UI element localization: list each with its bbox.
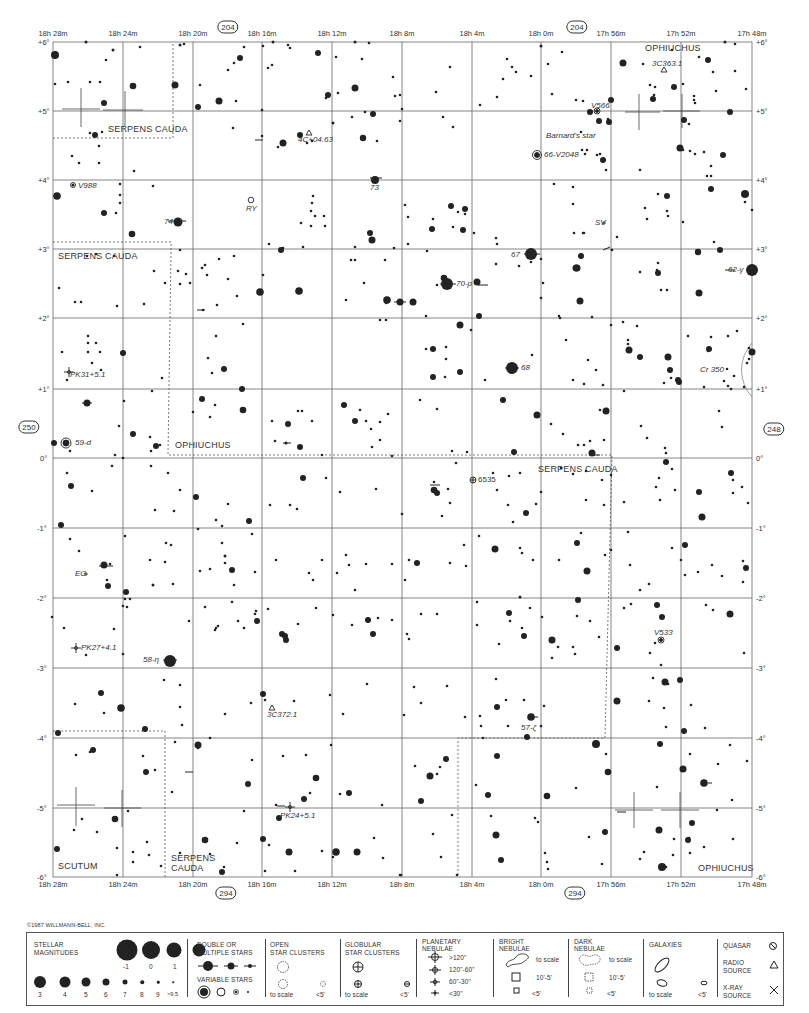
object-label: Barnard's star [546, 132, 596, 140]
magnitude-dot [157, 981, 160, 984]
object-label: V988 [78, 182, 97, 190]
constellation-label-scutum: SCUTUM [58, 862, 98, 871]
object-label: PK31+5.1 [70, 371, 105, 379]
constellation-label-ophiuchus: OPHIUCHUS [698, 864, 754, 873]
adjacent-chart-link-top[interactable]: 204 [217, 21, 238, 34]
adjacent-chart-link-top[interactable]: 204 [566, 21, 587, 34]
legend-label: <5' [607, 990, 616, 997]
dec-label-left: -3° [37, 664, 47, 673]
legend-label: 10'-5' [609, 974, 625, 981]
legend-divider [717, 939, 718, 997]
dark-nebula-icons [577, 951, 607, 1003]
ra-label-bottom: 18h 12m [317, 880, 346, 889]
dec-label-left: -2° [37, 594, 47, 603]
legend-title: QUASAR [723, 942, 751, 949]
object-label: 3C363.1 [652, 60, 682, 68]
dec-label-left: -4° [37, 734, 47, 743]
legend-open-clusters: OPEN STAR CLUSTERS to scale <5' [267, 933, 342, 1005]
magnitude-dot [82, 978, 91, 987]
legend-label: <5' [316, 991, 325, 998]
object-label: 59-d [75, 439, 91, 447]
dec-label-right: +6° [756, 38, 768, 47]
ra-label-top: 17h 48m [737, 29, 766, 38]
legend-divider [187, 939, 188, 997]
legend-divider [493, 939, 494, 997]
dec-label-right: -1° [756, 524, 766, 533]
adjacent-chart-link-left[interactable]: 250 [18, 421, 39, 434]
legend-title: RADIO [723, 959, 744, 966]
legend-label: 10'-5' [536, 974, 552, 981]
double-star-icons [196, 960, 276, 972]
legend-label: to scale [649, 991, 672, 998]
object-label: 73 [370, 184, 379, 192]
x-ray-source-icon [769, 985, 779, 995]
legend-globular-clusters: GLOBULAR STAR CLUSTERS to scale <5' [342, 933, 417, 1005]
object-label: 58-η [143, 656, 159, 664]
constellation-label-serpens-cauda: CAUDA [171, 864, 204, 873]
magnitude-dot [123, 980, 128, 985]
object-label: 74 [164, 218, 173, 226]
legend-title: STAR CLUSTERS [270, 949, 325, 956]
legend-label: <5' [532, 990, 541, 997]
constellation-label-serpens-cauda: SERPENS CAUDA [58, 252, 138, 261]
magnitude-dot [142, 941, 160, 959]
object-label: V533 [654, 629, 673, 637]
legend-label: to scale [609, 956, 632, 963]
dec-label-left: +1° [38, 385, 50, 394]
object-label: 4C+04.63 [298, 136, 333, 144]
legend-title: MAGNITUDES [34, 949, 78, 956]
magnitude-label: 1 [173, 963, 177, 970]
variable-star-icons [196, 985, 276, 999]
legend-title: DOUBLE OR [197, 941, 236, 948]
ra-label-top: 18h 8m [389, 29, 414, 38]
legend-dark-nebulae: DARK NEBULAE to scale 10'-5' <5' [571, 933, 646, 1005]
legend-title: OPEN [270, 941, 289, 948]
ra-label-bottom: 17h 56m [596, 880, 625, 889]
ra-label-top: 18h 28m [38, 29, 67, 38]
constellation-label-ophiuchus: OPHIUCHUS [645, 44, 701, 53]
object-label: V566 [591, 102, 610, 110]
adjacent-chart-link-bottom[interactable]: 294 [215, 887, 236, 900]
legend-label: 60"-30" [449, 978, 471, 985]
object-label: PK27+4.1 [81, 644, 116, 652]
bright-nebula-icons [504, 951, 534, 1003]
dec-label-right: -6° [756, 873, 766, 882]
magnitude-dot [172, 981, 174, 983]
object-label: 67 [511, 251, 520, 259]
object-label: PK24+5.1 [280, 812, 315, 820]
legend-title: X-RAY [723, 984, 743, 991]
legend-label: <5' [400, 991, 409, 998]
dec-label-left: +5° [38, 107, 50, 116]
legend-planetary-nebulae: PLANETARY NEBULAE >120" 120"-60" 60"-30"… [419, 933, 494, 1005]
ra-label-bottom: 18h 8m [389, 880, 414, 889]
legend-title: STELLAR [34, 941, 64, 948]
magnitude-dot [167, 943, 182, 958]
magnitude-dot [60, 977, 71, 988]
legend-title: MULTIPLE STARS [197, 949, 253, 956]
object-label: 66-V2048 [544, 151, 579, 159]
star-chart-grid [0, 0, 809, 900]
legend-divider [340, 939, 341, 997]
legend-title: VARIABLE STARS [197, 976, 253, 983]
legend-title: GLOBULAR [345, 941, 381, 948]
dec-label-right: -5° [756, 804, 766, 813]
legend-stellar-magnitudes: STELLAR MAGNITUDES -1 0 1 3 4 5 6 7 8 9 … [27, 933, 187, 1005]
magnitude-label: 5 [84, 991, 88, 998]
adjacent-chart-link-right[interactable]: 248 [763, 423, 784, 436]
adjacent-chart-link-bottom[interactable]: 294 [564, 887, 585, 900]
ra-label-top: 17h 52m [666, 29, 695, 38]
chart-legend: STELLAR MAGNITUDES -1 0 1 3 4 5 6 7 8 9 … [26, 932, 784, 1006]
dec-label-left: +4° [38, 176, 50, 185]
magnitude-label: 4 [63, 991, 67, 998]
dec-label-right: +4° [756, 176, 768, 185]
legend-label: <5' [698, 991, 707, 998]
dec-label-left: -5° [37, 804, 47, 813]
magnitude-label: 0 [149, 963, 153, 970]
magnitude-label: 6 [104, 991, 108, 998]
magnitude-dot [140, 980, 144, 984]
legend-divider [416, 939, 417, 997]
magnitude-dot [117, 940, 138, 961]
magnitude-dot [34, 976, 46, 988]
legend-other-sources: QUASAR RADIO SOURCE X-RAY SOURCE [720, 933, 784, 1005]
legend-title: GALAXIES [649, 941, 682, 948]
